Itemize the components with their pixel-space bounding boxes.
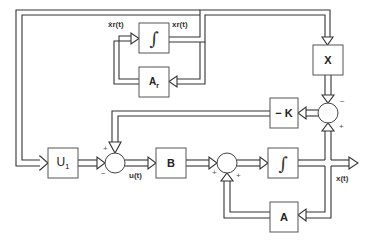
arrow-into-sum-right-bottom [322,123,334,131]
wire-sum-to-negK [306,110,318,116]
sign-sum-right-top: − [340,97,345,106]
negK-label: − K [275,107,292,119]
wire-xr-to-U1 [16,10,200,166]
sum-junction-right [318,103,338,123]
signal-xr-dot: ẋr(t) [108,20,124,29]
arrow-into-Ar [169,76,177,87]
A-label: A [280,211,288,223]
wire-negK-to-sum-left [112,111,270,142]
integrator-plant-label: ∫ [278,153,287,174]
signal-u: u(t) [129,171,142,180]
wire-X-to-sum [325,75,331,95]
wire-sum-to-integrator [237,160,260,166]
sign-sum-right-bottom: + [339,122,344,131]
arrow-into-integrator-plant [260,157,268,169]
X-label: X [324,54,331,66]
sum-junction-left [105,153,125,173]
arrow-into-A [298,209,306,221]
arrow-into-X [322,37,333,45]
arrow-into-B [148,157,156,169]
signal-x: x(t) [336,174,348,183]
arrow-into-U1 [40,156,48,170]
arrow-into-sum-right [322,95,334,103]
arrow-into-negK [298,107,306,119]
block-diagram-canvas [0,0,372,241]
integrator-ref-label: ∫ [149,28,158,49]
U1-label: U1 [56,155,69,171]
Ar-label: Ar [149,76,159,89]
wire-U1-to-sum [78,160,97,166]
arrow-into-sum-mid-bottom [221,173,233,181]
B-label: B [167,157,175,169]
sign-sum-left-top: + [103,144,108,153]
arrow-into-sum-left [109,142,121,153]
arrow-x-output [349,157,358,169]
sign-sum-mid-bottom: + [236,171,241,180]
signal-xr: xr(t) [172,20,188,29]
wire-A-to-sum [224,181,270,218]
arrow-into-sum-left-from-U1 [97,157,105,169]
wire-x-feedback [306,131,331,218]
sum-junction-mid [217,153,237,173]
wire-Ar-to-integrator [114,36,139,84]
arrow-into-integrator-ref [131,33,139,44]
wire-xr-to-Ar [177,42,205,84]
wire-x-output [298,160,349,166]
wire-B-to-sum [186,160,209,166]
sign-sum-mid-left: + [212,168,217,177]
wire-u-to-B [125,160,148,166]
sign-sum-left-left: − [101,169,106,178]
